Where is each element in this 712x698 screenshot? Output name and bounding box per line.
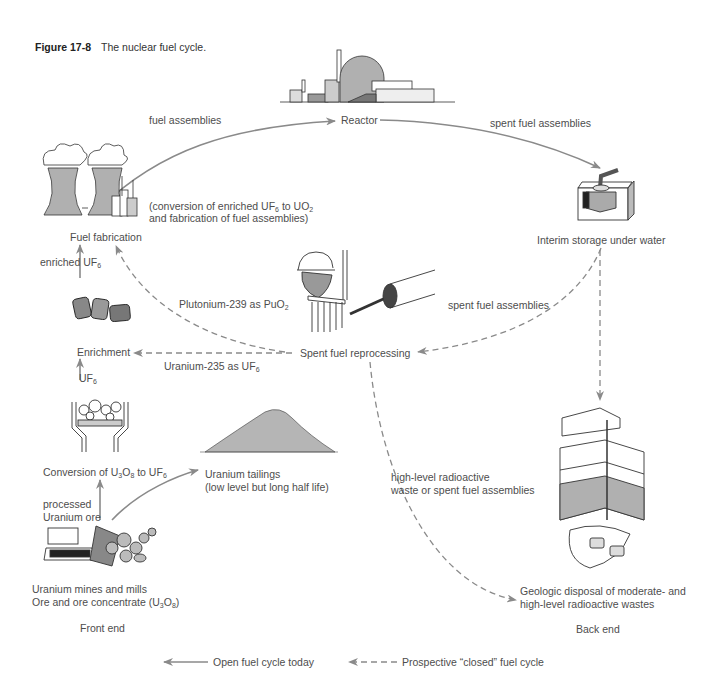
fuel-fabrication-illustration <box>43 144 137 216</box>
fabrication-note-line2: and fabrication of fuel assemblies) <box>149 212 308 225</box>
reactor-illustration <box>280 50 455 102</box>
flow-plutonium-label: Plutonium-239 as PuO2 <box>179 298 289 311</box>
flow-high-level-line1: high-level radioactive <box>391 471 490 484</box>
back-end-label: Back end <box>576 623 620 636</box>
reactor-label: Reactor <box>341 114 378 127</box>
flow-processed-ore-line2: Uranium ore <box>43 511 101 524</box>
conversion-label: Conversion of U3O8 to UF6 <box>43 466 167 479</box>
legend-open-cycle-label: Open fuel cycle today <box>213 656 314 669</box>
geologic-repository-illustration <box>560 408 644 568</box>
interim-storage-illustration <box>578 170 634 220</box>
tailings-label-line1: Uranium tailings <box>205 468 280 481</box>
figure-caption: Figure 17-8The nuclear fuel cycle. <box>35 41 206 53</box>
reprocessing-worker-illustration <box>297 250 435 332</box>
mines-label-line2: Ore and ore concentrate (U3O8) <box>32 596 179 609</box>
flow-spent-fuel-assemblies-mid-label: spent fuel assemblies <box>448 299 549 312</box>
legend-closed-cycle-label: Prospective “closed” fuel cycle <box>402 656 544 669</box>
flow-fuel-assemblies-label: fuel assemblies <box>149 114 221 127</box>
flow-high-level-line2: waste or spent fuel assemblies <box>391 484 535 497</box>
uranium-mine-illustration <box>44 526 156 566</box>
mines-label-line1: Uranium mines and mills <box>32 583 147 596</box>
flow-processed-ore-line1: processed <box>43 498 91 511</box>
uranium-pellets-illustration <box>72 297 131 322</box>
geologic-label-line2: high-level radioactive wastes <box>520 598 654 611</box>
tailings-label-line2: (low level but long half life) <box>205 481 329 494</box>
arrow-fabrication-to-reactor <box>100 121 335 208</box>
conversion-hopper-illustration <box>72 400 128 452</box>
interim-storage-label: Interim storage under water <box>537 234 665 247</box>
front-end-label: Front end <box>80 622 125 635</box>
enrichment-label: Enrichment <box>77 346 130 359</box>
fuel-fabrication-label: Fuel fabrication <box>70 231 142 244</box>
spent-fuel-reprocessing-label: Spent fuel reprocessing <box>300 347 410 360</box>
geologic-label-line1: Geologic disposal of moderate- and <box>520 585 686 598</box>
figure-title: The nuclear fuel cycle. <box>101 41 206 53</box>
uranium-tailings-illustration <box>205 410 335 452</box>
flow-enriched-uf6-label: enriched UF6 <box>40 256 101 269</box>
flow-uranium235-label: Uranium-235 as UF6 <box>164 360 260 373</box>
flow-spent-fuel-assemblies-top-label: spent fuel assemblies <box>490 117 591 130</box>
flow-uf6-label: UF6 <box>79 372 97 385</box>
figure-number: Figure 17-8 <box>35 41 91 53</box>
